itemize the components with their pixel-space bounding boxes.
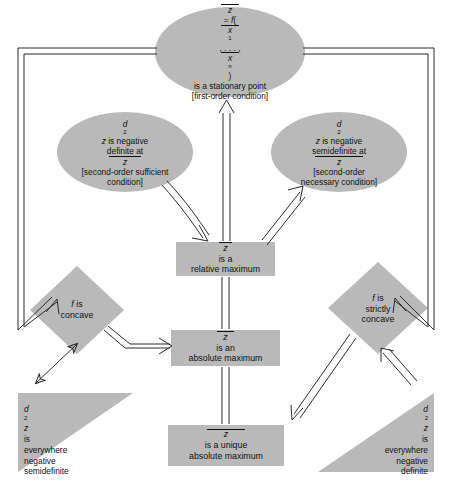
connectors-layer bbox=[0, 0, 450, 493]
edge-stationary-to-f-strictly-concave bbox=[303, 48, 434, 330]
edge-f-concave-to-everywhere-neg-semidef bbox=[36, 344, 77, 383]
diagram-canvas: z = f(x1, . . . , xn) is a stationary po… bbox=[0, 0, 450, 493]
edge-unique-abs-max-to-absolute-max bbox=[222, 367, 229, 424]
edge-f-concave-to-absolute-max bbox=[104, 326, 172, 354]
edge-f-strictly-concave-to-unique-abs-max bbox=[291, 334, 356, 420]
edge-everywhere-neg-def-to-f-strictly-concave bbox=[381, 348, 417, 385]
edge-absolute-max-to-relative-max bbox=[222, 277, 229, 329]
edge-relative-max-to-neg-semidefinite bbox=[262, 186, 305, 245]
edge-neg-definite-to-relative-max bbox=[162, 181, 209, 241]
edge-stationary-to-f-concave bbox=[18, 48, 157, 330]
edge-relative-max-to-stationary bbox=[219, 100, 234, 241]
